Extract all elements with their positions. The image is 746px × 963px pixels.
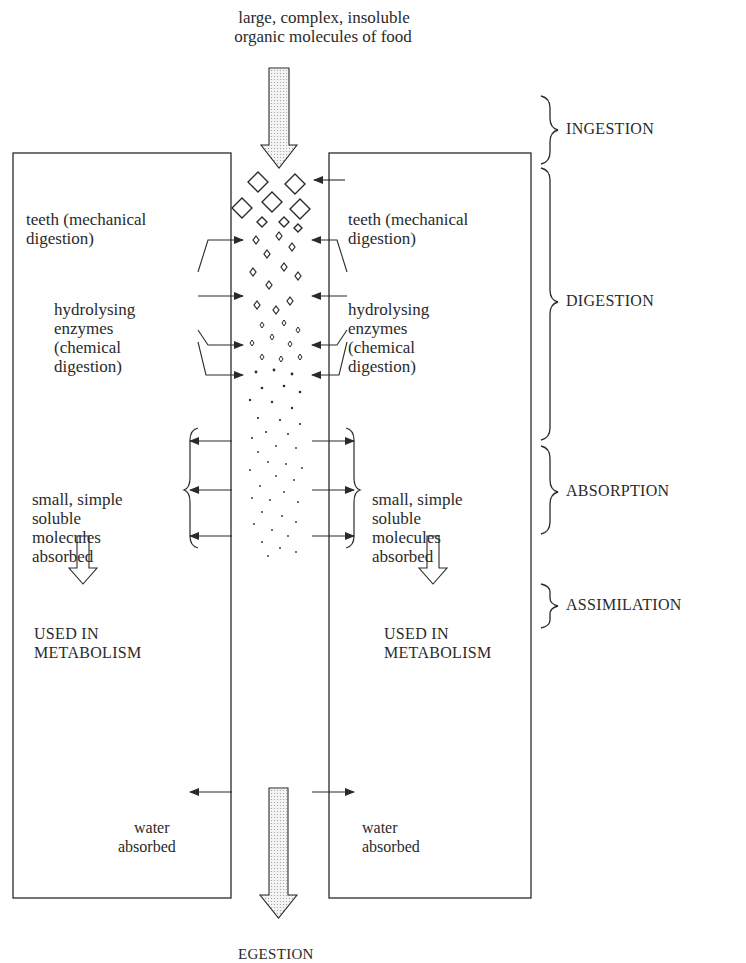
right-absorbed-label: small, simplesolublemoleculesabsorbed — [372, 452, 463, 585]
stage-braces — [541, 96, 558, 628]
large-molecules — [232, 172, 310, 232]
left-enzymes-label: hydrolysingenzymes(chemicaldigestion) — [54, 262, 135, 395]
left-used-label: USED INMETABOLISM — [34, 586, 142, 681]
left-water-label: waterabsorbed — [118, 780, 176, 875]
stage-digestion: DIGESTION — [566, 292, 654, 310]
top-food-label: large, complex, insoluble organic molecu… — [236, 8, 418, 46]
left-teeth-label: teeth (mechanicaldigestion) — [26, 172, 146, 267]
food-input-arrow-icon — [261, 68, 297, 168]
small-molecules — [250, 320, 302, 362]
stage-ingestion: INGESTION — [566, 120, 654, 138]
soluble-molecule-dots — [249, 369, 303, 557]
medium-molecules — [250, 232, 301, 314]
egestion-label: EGESTION — [238, 912, 314, 963]
left-absorbed-label: small, simplesolublemoleculesabsorbed — [32, 452, 123, 585]
stage-assimilation: ASSIMILATION — [566, 596, 682, 614]
top-label-line1: large, complex, insoluble — [230, 8, 418, 27]
egestion-arrow-icon — [260, 788, 297, 918]
right-water-label: waterabsorbed — [362, 780, 420, 875]
left-absorption — [184, 428, 232, 548]
stage-absorption: ABSORPTION — [566, 482, 669, 500]
right-enzymes-label: hydrolysingenzymes(chemicaldigestion) — [348, 262, 429, 395]
right-absorption — [312, 428, 360, 548]
right-teeth-label: teeth (mechanicaldigestion) — [348, 172, 468, 267]
top-label-line2: organic molecules of food — [228, 27, 418, 46]
left-enzyme-arrows — [198, 240, 243, 375]
right-used-label: USED INMETABOLISM — [384, 586, 492, 681]
